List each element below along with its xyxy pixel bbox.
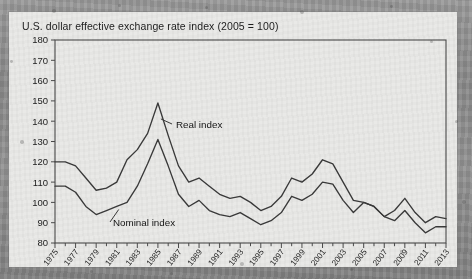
scan-speck xyxy=(118,4,121,7)
x-tick-2007: 2007 xyxy=(371,247,390,267)
annotation-leader-lines xyxy=(110,119,172,222)
y-tick-110: 110 xyxy=(33,177,48,188)
plot-frame xyxy=(55,40,446,243)
y-tick-160: 160 xyxy=(32,75,48,86)
x-tick-1977: 1977 xyxy=(62,247,81,267)
nominal-index-label: Nominal index xyxy=(113,217,175,228)
scan-speck xyxy=(400,250,403,253)
x-tick-1997: 1997 xyxy=(268,247,287,267)
real-index-leader-line xyxy=(161,119,172,124)
x-tick-1979: 1979 xyxy=(83,247,102,267)
x-tick-1991: 1991 xyxy=(206,247,225,267)
y-tick-170: 170 xyxy=(32,55,48,66)
x-tick-2005: 2005 xyxy=(350,247,369,267)
x-tick-1995: 1995 xyxy=(248,247,267,267)
series-line-real-index xyxy=(55,103,446,223)
y-axis-ticks xyxy=(51,40,55,243)
x-tick-1975: 1975 xyxy=(42,247,61,267)
x-tick-2001: 2001 xyxy=(309,247,328,267)
x-tick-1989: 1989 xyxy=(186,247,205,267)
x-tick-1987: 1987 xyxy=(165,247,184,267)
scan-speck xyxy=(240,262,244,266)
scan-speck xyxy=(20,140,24,144)
y-tick-130: 130 xyxy=(32,136,48,147)
figure-page: U.S. dollar effective exchange rate inde… xyxy=(9,12,457,267)
x-tick-1983: 1983 xyxy=(124,247,143,267)
scan-speck xyxy=(170,272,173,275)
chart-plot-area: 8090100110120130140150160170180 19751977… xyxy=(9,12,457,267)
x-axis-ticks xyxy=(55,243,446,248)
y-tick-140: 140 xyxy=(32,116,48,127)
y-tick-80: 80 xyxy=(37,237,48,248)
scan-speck xyxy=(300,10,304,14)
y-axis-tick-labels: 8090100110120130140150160170180 xyxy=(32,34,48,248)
scan-speck xyxy=(462,200,466,204)
data-series-lines xyxy=(55,103,446,233)
y-tick-100: 100 xyxy=(32,197,48,208)
x-tick-1999: 1999 xyxy=(289,247,308,267)
scan-speck xyxy=(430,40,433,43)
x-tick-2011: 2011 xyxy=(413,247,431,267)
scan-speck xyxy=(390,5,393,8)
x-tick-2003: 2003 xyxy=(330,247,349,267)
real-index-label: Real index xyxy=(176,119,222,130)
x-tick-1985: 1985 xyxy=(145,247,164,267)
y-tick-120: 120 xyxy=(32,156,48,167)
x-tick-2013: 2013 xyxy=(433,247,452,267)
y-tick-180: 180 xyxy=(32,34,48,45)
scan-speck xyxy=(10,60,13,63)
y-tick-90: 90 xyxy=(37,217,48,228)
x-tick-1981: 1981 xyxy=(104,247,123,267)
scan-speck xyxy=(52,9,56,13)
x-axis-tick-labels: 1975197719791981198319851987198919911993… xyxy=(42,247,452,267)
y-tick-150: 150 xyxy=(32,95,48,106)
line-chart-svg: 8090100110120130140150160170180 19751977… xyxy=(9,12,457,267)
